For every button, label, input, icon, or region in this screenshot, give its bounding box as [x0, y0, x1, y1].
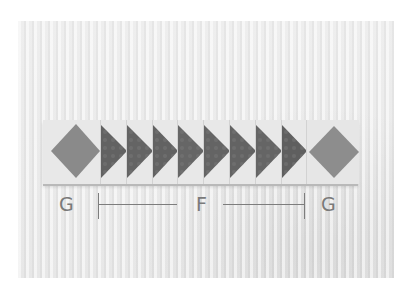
bracket-right-line	[223, 204, 304, 205]
flying-goose-unit	[177, 120, 204, 184]
label-right-g: G	[321, 193, 336, 215]
right-diamond-block	[306, 120, 359, 184]
flying-goose-unit	[152, 120, 178, 184]
flying-goose-unit	[281, 120, 307, 184]
flying-goose-unit	[203, 120, 230, 184]
flying-goose-unit	[126, 120, 153, 184]
left-diamond-block	[43, 120, 100, 184]
flying-goose-unit	[229, 120, 256, 184]
label-left-g: G	[59, 193, 74, 215]
diamond-shape	[43, 120, 100, 184]
bracket-left-tick	[98, 193, 99, 219]
flying-goose-unit	[255, 120, 282, 184]
quilt-strip	[43, 120, 358, 184]
label-middle-f: F	[196, 193, 207, 215]
bracket-right-tick	[304, 193, 305, 219]
bracket-left-line	[98, 204, 177, 205]
diamond-shape	[307, 120, 359, 184]
flying-goose-unit	[100, 120, 127, 184]
